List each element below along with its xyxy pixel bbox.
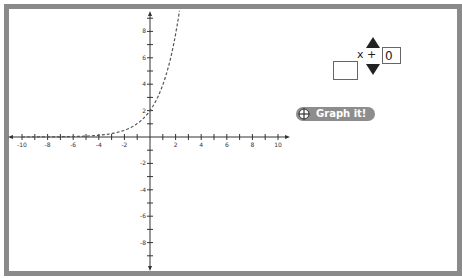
- svg-text:2: 2: [174, 141, 178, 148]
- svg-text:-2: -2: [121, 141, 127, 148]
- crosshair-icon: [298, 108, 310, 120]
- graph-it-button[interactable]: Graph it!: [296, 107, 375, 121]
- decrement-arrow-icon[interactable]: [366, 64, 380, 75]
- svg-text:6: 6: [225, 141, 229, 148]
- operator-label: x +: [357, 48, 376, 61]
- svg-text:-4: -4: [96, 141, 102, 148]
- svg-text:-6: -6: [70, 141, 76, 148]
- svg-text:8: 8: [250, 141, 254, 148]
- svg-text:10: 10: [274, 141, 282, 148]
- svg-text:2: 2: [142, 107, 146, 114]
- offset-input[interactable]: 0: [382, 47, 401, 64]
- svg-text:-8: -8: [140, 239, 146, 246]
- y-axis-up-arrow: [148, 11, 152, 16]
- svg-text:4: 4: [142, 80, 146, 87]
- y-axis-down-arrow: [148, 266, 152, 271]
- svg-text:-10: -10: [17, 141, 27, 148]
- svg-text:-2: -2: [140, 159, 146, 166]
- svg-text:4: 4: [199, 141, 203, 148]
- coefficient-input[interactable]: [333, 61, 358, 80]
- function-curve: [22, 11, 179, 137]
- svg-text:8: 8: [142, 27, 146, 34]
- x-axis-right-arrow: [285, 135, 290, 139]
- svg-text:-6: -6: [140, 212, 146, 219]
- graph-it-label: Graph it!: [316, 107, 366, 121]
- svg-text:-4: -4: [140, 186, 146, 193]
- increment-arrow-icon[interactable]: [366, 37, 380, 48]
- svg-text:6: 6: [142, 54, 146, 61]
- x-axis-left-arrow: [8, 135, 13, 139]
- svg-text:-8: -8: [45, 141, 51, 148]
